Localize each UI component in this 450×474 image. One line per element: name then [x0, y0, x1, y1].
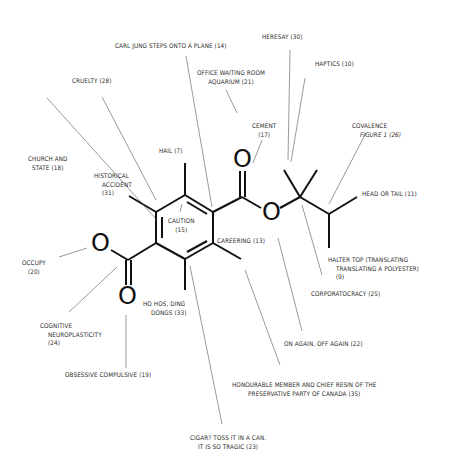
- label-halter-top: HALTER TOP (TRANSLATING TRANSLATING A PO…: [328, 256, 419, 282]
- label-occupy: OCCUPY (20): [22, 259, 46, 276]
- label-head-or-tail: HEAD OR TAIL (11): [362, 190, 417, 199]
- label-covalence: COVALENCE FIGURE 1 (26): [352, 122, 401, 139]
- label-church-and-state: CHURCH AND STATE (18): [28, 155, 67, 172]
- label-carl-jung: CARL JUNG STEPS ONTO A PLANE (14): [115, 42, 227, 51]
- molecule-diagram: O O O O CARL JUNG STEPS ONTO A PLANE (14…: [0, 0, 450, 474]
- label-on-again-off-again: ON AGAIN, OFF AGAIN (22): [284, 340, 363, 349]
- label-ho-hos-ding-dongs: HO HOS, DING DONGS (33): [143, 300, 186, 317]
- label-caution: CAUTION (15): [168, 217, 195, 234]
- label-careering: CAREERING (13): [217, 237, 265, 246]
- label-haptics: HAPTICS (10): [315, 60, 354, 69]
- label-obsessive-compulsive: OBSESSIVE COMPULSIVE (19): [65, 371, 151, 380]
- label-cognitive-neuroplasticity: COGNITIVE NEUROPLASTICITY (24): [40, 322, 102, 348]
- label-hail: HAIL (7): [159, 147, 183, 156]
- label-honourable-member: HONOURABLE MEMBER AND CHIEF RESIN OF THE…: [232, 381, 377, 398]
- label-heresay: HERESAY (30): [262, 33, 303, 42]
- oxygen-atom-left-top: O: [91, 231, 110, 255]
- label-cement: CEMENT (17): [252, 122, 276, 139]
- label-historical-accident: HISTORICAL ACCIDENT (31): [94, 172, 132, 198]
- label-corporatocracy: CORPORATOCRACY (25): [311, 290, 380, 299]
- label-cigar: CIGAR? TOSS IT IN A CAN. IT IS SO TRAGIC…: [190, 434, 266, 451]
- label-office-waiting-room: OFFICE WAITING ROOM AQUARIUM (21): [197, 69, 265, 86]
- oxygen-atom-left-bottom: O: [118, 284, 137, 308]
- oxygen-atom-ester: O: [262, 200, 281, 224]
- label-cruelty: CRUELTY (28): [72, 77, 111, 86]
- oxygen-atom-carbonyl-right: O: [233, 147, 252, 171]
